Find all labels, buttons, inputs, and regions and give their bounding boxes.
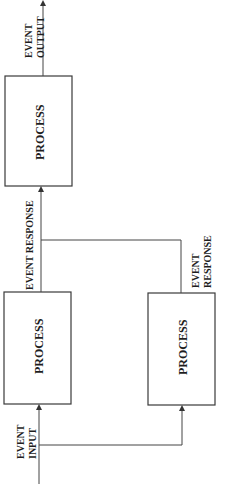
event-output-label-2: OUTPUT [35, 16, 46, 58]
process-box-right: PROCESS [148, 293, 215, 405]
process-box-top: PROCESS [5, 76, 72, 186]
event-process-diagram: PROCESS PROCESS PROCESS EVENT OUTPUT EVE… [0, 0, 231, 496]
event-input-branch [39, 408, 182, 445]
event-response-connector [41, 240, 181, 293]
process-right-label: PROCESS [176, 319, 190, 375]
event-response-main-label: EVENT RESPONSE [24, 200, 35, 290]
event-output-label-1: EVENT [23, 23, 34, 58]
process-box-left: PROCESS [4, 292, 71, 404]
event-input-label-2: INPUT [27, 428, 38, 459]
event-input-label-1: EVENT [15, 424, 26, 459]
event-response-label-2: RESPONSE [202, 235, 213, 288]
process-top-label: PROCESS [33, 104, 47, 160]
process-left-label: PROCESS [32, 318, 46, 374]
event-response-label-1: EVENT [190, 253, 201, 288]
